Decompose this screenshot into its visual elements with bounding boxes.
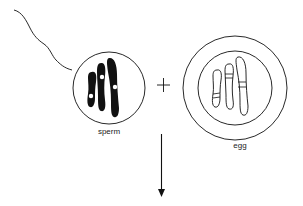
egg-membrane: [198, 51, 272, 125]
sperm-chromosome-1: [87, 72, 96, 107]
fertilization-diagram: sperm egg: [0, 0, 303, 206]
sperm-label: sperm: [98, 127, 121, 136]
sperm-cell: sperm: [73, 52, 145, 136]
down-arrow-icon: [158, 134, 165, 197]
egg-chromosome-1: [212, 70, 221, 107]
sperm-centromere-3: [113, 85, 117, 89]
egg-label: egg: [233, 141, 246, 150]
egg-outer-layer: [183, 36, 287, 140]
egg-centromere-1: [213, 93, 220, 98]
plus-sign: [157, 78, 170, 92]
sperm-chromosome-2: [97, 63, 105, 111]
sperm-centromere-2: [100, 75, 104, 79]
egg-chromosome-3: [236, 57, 248, 115]
egg-centromere-2: [225, 74, 233, 78]
sperm-centromere-1: [89, 94, 93, 98]
egg-chromosome-2: [225, 64, 233, 109]
egg-cell: egg: [183, 36, 287, 150]
sperm-tail: [14, 10, 72, 70]
